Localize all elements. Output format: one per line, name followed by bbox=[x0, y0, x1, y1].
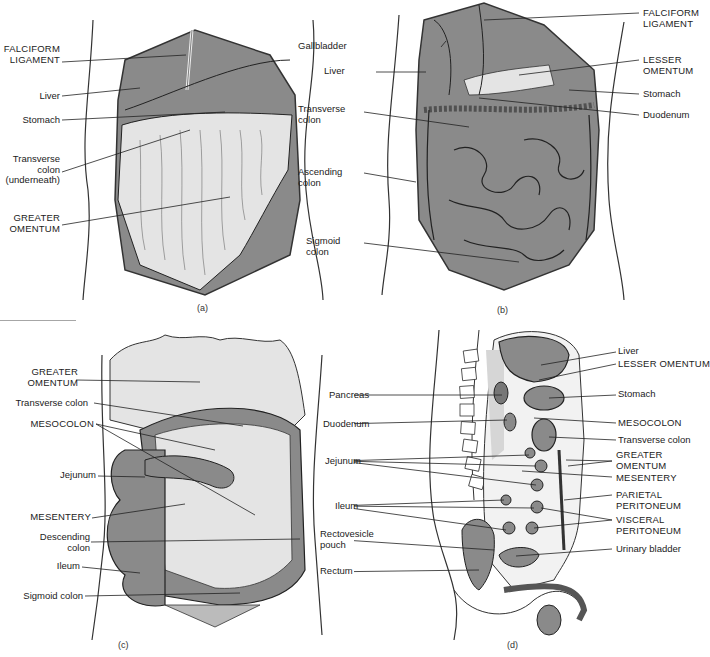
label-rectum: Rectum bbox=[320, 566, 353, 577]
label-visceral-peritoneum: VISCERAL PERITONEUM bbox=[616, 515, 681, 536]
label-pancreas: Pancreas bbox=[329, 390, 369, 401]
label-sigmoid-colon: Sigmoid colon bbox=[23, 591, 83, 602]
label-rectovesicle-pouch: Rectovesicle pouch bbox=[320, 529, 374, 550]
label-ascending-colon: Ascending colon bbox=[298, 167, 342, 188]
panel-b-illustration bbox=[354, 0, 709, 320]
label-ileum: Ileum bbox=[335, 501, 358, 512]
label-jejunum: Jejunum bbox=[60, 470, 96, 481]
label-greater-omentum: GREATER OMENTUM bbox=[616, 450, 666, 471]
caption-a: (a) bbox=[197, 303, 208, 313]
label-liver: Liver bbox=[618, 346, 639, 357]
label-stomach: Stomach bbox=[618, 389, 656, 400]
label-mesocolon: MESOCOLON bbox=[618, 418, 682, 429]
label-lesser-omentum: LESSER OMENTUM bbox=[618, 359, 710, 370]
label-falciform-ligament: FALCIFORM LIGAMENT bbox=[4, 44, 60, 65]
label-falciform-ligament: FALCIFORM LIGAMENT bbox=[643, 8, 699, 29]
label-parietal-peritoneum: PARIETAL PERITONEUM bbox=[616, 490, 681, 511]
label-stomach: Stomach bbox=[643, 89, 681, 100]
label-ileum: Ileum bbox=[57, 561, 80, 572]
label-urinary-bladder: Urinary bladder bbox=[616, 544, 681, 555]
panel-c: GREATER OMENTUM Transverse colon MESOCOL… bbox=[0, 320, 354, 657]
label-duodenum: Duodenum bbox=[643, 110, 689, 121]
label-lesser-omentum: LESSER OMENTUM bbox=[643, 55, 693, 76]
label-mesentery: MESENTERY bbox=[616, 473, 677, 484]
caption-c: (c) bbox=[118, 640, 129, 650]
caption-b: (b) bbox=[497, 305, 508, 315]
label-greater-omentum: GREATER OMENTUM bbox=[10, 213, 60, 234]
label-transverse-colon: Transverse colon bbox=[618, 435, 691, 446]
label-mesentery: MESENTERY bbox=[30, 512, 91, 523]
caption-d: (d) bbox=[507, 640, 518, 650]
label-sigmoid-colon: Sigmoid colon bbox=[306, 236, 340, 257]
label-gallbladder: Gallbladder bbox=[298, 41, 347, 52]
label-liver: Liver bbox=[39, 91, 60, 102]
label-transverse-colon: Transverse colon bbox=[15, 398, 88, 409]
label-greater-omentum: GREATER OMENTUM bbox=[28, 367, 78, 388]
label-transverse-colon: Transverse colon bbox=[298, 104, 345, 125]
label-liver: Liver bbox=[324, 66, 345, 77]
label-stomach: Stomach bbox=[23, 115, 61, 126]
label-transverse-colon-underneath: Transverse colon (underneath) bbox=[6, 154, 60, 186]
label-mesocolon: MESOCOLON bbox=[30, 419, 94, 430]
label-duodenum: Duodenum bbox=[323, 419, 369, 430]
label-descending-colon: Descending colon bbox=[40, 532, 90, 553]
label-jejunum: Jejunum bbox=[325, 456, 361, 467]
panel-d: Pancreas Duodenum Jejunum Ileum Rectoves… bbox=[354, 320, 709, 657]
panel-b: Gallbladder Liver Transverse colon Ascen… bbox=[354, 0, 709, 320]
